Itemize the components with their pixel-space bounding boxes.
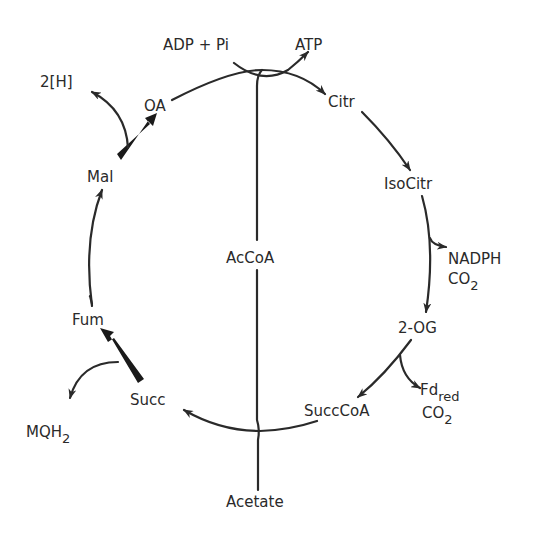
label-nadph: NADPH	[448, 250, 501, 268]
bold-arrow-succ-fum	[100, 328, 144, 383]
label-adp-pi: ADP + Pi	[163, 36, 229, 54]
label-succ: Succ	[130, 391, 166, 409]
edge-nadph-branch	[430, 238, 446, 247]
label-co2-a: CO2	[448, 270, 479, 293]
label-co2-b: CO2	[422, 404, 453, 427]
label-accoa: AcCoA	[226, 249, 275, 267]
label-isocitr: IsoCitr	[384, 175, 433, 193]
label-mal: Mal	[87, 168, 113, 186]
edge-fum-mal	[89, 190, 102, 306]
bold-arrow-mal-oa	[117, 113, 157, 160]
label-citr: Citr	[328, 93, 356, 111]
edge-accoa-bottom	[257, 270, 259, 490]
edge-citr-isocitr	[362, 112, 410, 170]
label-mqh2: MQH2	[26, 423, 70, 446]
edge-accoa-top	[257, 70, 262, 240]
citric-acid-cycle-diagram: ADP + Pi ATP 2[H] OA Citr Mal IsoCitr Ac…	[0, 0, 534, 535]
bold-arrows	[100, 113, 157, 383]
edge-oa-accoa-citr	[172, 70, 325, 100]
side-branches	[70, 52, 308, 398]
edge-mqh2-branch	[70, 362, 118, 398]
label-fum: Fum	[72, 311, 104, 329]
edge-2h-branch	[92, 92, 128, 148]
label-atp: ATP	[295, 36, 322, 54]
accoa-axis	[257, 70, 262, 490]
label-oa: OA	[144, 97, 167, 115]
edge-isocitr-2og	[422, 196, 430, 312]
edge-succcoa-succ	[184, 410, 317, 431]
label-2h: 2[H]	[40, 73, 73, 91]
edge-fd-branch	[400, 355, 420, 388]
label-acetate: Acetate	[226, 493, 284, 511]
label-2og: 2-OG	[398, 319, 437, 337]
label-succcoa: SuccCoA	[304, 402, 370, 420]
label-fd-red: Fdred	[420, 381, 459, 404]
